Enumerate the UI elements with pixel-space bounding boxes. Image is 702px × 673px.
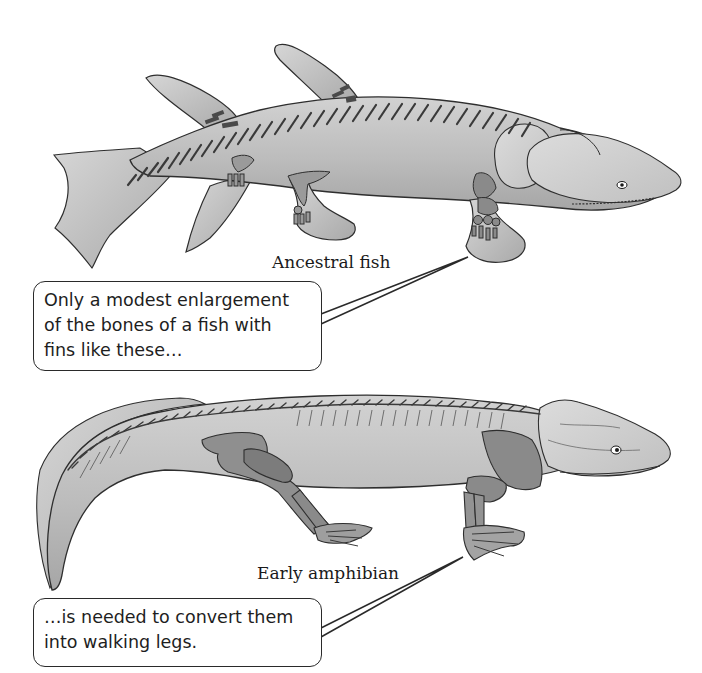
early-amphibian-label: Early amphibian <box>257 563 399 583</box>
fish-front-dorsal-fin <box>275 44 360 104</box>
evolution-diagram: Ancestral fish Early amphibian Only a mo… <box>0 0 702 673</box>
callout-text-line: Only a modest enlargement <box>44 288 311 313</box>
callout-text-line: fins like these… <box>44 338 311 363</box>
callout-text-line: of the bones of a fish with <box>44 313 311 338</box>
amphibian-callout-box: …is needed to convert them into walking … <box>33 598 322 667</box>
callout-text-line: …is needed to convert them <box>44 605 311 630</box>
early-amphibian-illustration <box>37 395 671 590</box>
fish-anal-fin <box>186 180 250 252</box>
ancestral-fish-illustration <box>54 44 681 268</box>
callout-text-line: into walking legs. <box>44 630 311 655</box>
amphibian-head <box>538 400 670 476</box>
ancestral-fish-label: Ancestral fish <box>272 252 390 272</box>
fish-callout-box: Only a modest enlargement of the bones o… <box>33 281 322 371</box>
